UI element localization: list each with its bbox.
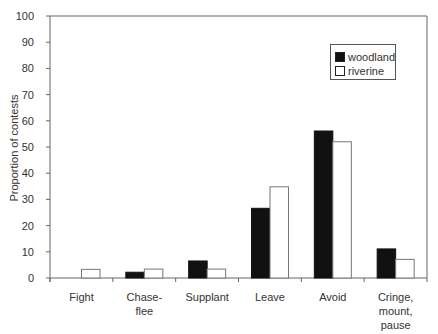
legend-label-riverine: riverine [348,65,384,77]
bar-woodland [189,261,208,278]
y-axis-label: Proportion of contests [8,94,20,201]
bar-riverine [396,259,415,278]
bar-riverine [270,187,289,278]
x-tick-label: Supplant [176,290,239,304]
legend-item-woodland: woodland [335,50,395,64]
bar-woodland [126,272,145,278]
y-tick-label: 90 [6,36,34,48]
bar-riverine [82,269,101,278]
bars [82,131,415,278]
legend: woodland riverine [330,44,396,80]
legend-item-riverine: riverine [335,64,384,78]
bar-woodland [252,208,271,278]
x-tick-label: Avoid [301,290,364,304]
y-tick-label: 0 [6,272,34,284]
bar-riverine [333,142,352,278]
bar-riverine [144,269,163,278]
legend-label-woodland: woodland [348,51,395,63]
x-tick-label: Cringe, mount, pause [364,290,427,332]
y-tick-label: 20 [6,220,34,232]
y-tick-label: 10 [6,246,34,258]
x-tick-label: Leave [239,290,302,304]
x-tick-label: Fight [50,290,113,304]
bar-woodland [314,131,333,278]
bar-woodland [377,249,396,278]
y-tick-label: 100 [6,10,34,22]
legend-swatch-woodland [335,52,345,62]
x-tick-label: Chase- flee [113,290,176,318]
y-tick-label: 80 [6,62,34,74]
legend-swatch-riverine [335,66,345,76]
bar-riverine [207,269,226,278]
